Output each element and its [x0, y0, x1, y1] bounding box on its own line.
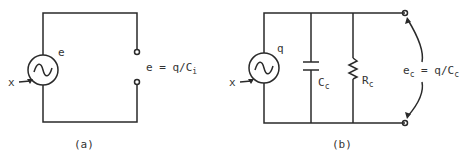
resistor-icon [349, 58, 357, 79]
source-label: q [277, 42, 284, 55]
resistor-label: Rc [362, 74, 374, 89]
sine-icon [255, 62, 273, 74]
input-label: x [8, 76, 15, 89]
terminal-top [135, 50, 140, 55]
source-label: e [58, 46, 65, 59]
terminal-bottom [135, 80, 140, 85]
caption-b: (b) [332, 138, 352, 151]
circuit-a: e x e = q/Ci (a) [8, 13, 197, 151]
output-expression: ec = q/Cc [403, 64, 459, 79]
input-label: x [229, 76, 236, 89]
caption-a: (a) [74, 138, 94, 151]
circuit-b: q x Cc Rc ec = q/Cc (b) [229, 11, 459, 152]
circuit-diagrams: e x e = q/Ci (a) q x Cc Rc ec = q/Cc (b) [0, 0, 464, 156]
output-expression: e = q/Ci [146, 61, 197, 76]
sine-icon [34, 64, 52, 76]
capacitor-label: Cc [318, 76, 330, 91]
